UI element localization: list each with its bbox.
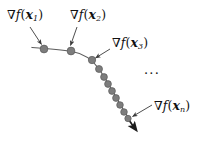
ellipsis-text: ··· [144, 66, 160, 81]
variable-x: x [173, 98, 181, 113]
arrow-to-x1-icon [30, 27, 42, 45]
iterate-dot [96, 66, 103, 73]
paren-close: ) [38, 7, 43, 22]
gradient-descent-figure: ∇f(x1) ∇f(x2) ∇f(x3) ∇f(xn) ··· [0, 0, 206, 142]
iterate-dot [125, 115, 131, 121]
nabla-icon: ∇ [70, 7, 79, 22]
iterate-dot [67, 47, 75, 55]
gradient-label-n: ∇f(xn) [154, 100, 190, 114]
gradient-label-3: ∇f(x3) [112, 37, 148, 51]
nabla-icon: ∇ [7, 7, 16, 22]
paren-close: ) [143, 35, 148, 50]
iterate-dot [88, 56, 95, 63]
arrow-to-x2-icon [71, 27, 78, 46]
trajectory-curve [32, 48, 134, 129]
iterate-dot [117, 102, 124, 109]
variable-x: x [26, 7, 34, 22]
iterate-dot [121, 109, 128, 116]
iterate-dot [40, 45, 48, 53]
iterate-dot [101, 74, 108, 81]
paren-close: ) [101, 7, 106, 22]
paren-close: ) [185, 98, 190, 113]
nabla-icon: ∇ [112, 35, 121, 50]
variable-x: x [131, 35, 139, 50]
nabla-icon: ∇ [154, 98, 163, 113]
iterate-dot [113, 95, 120, 102]
gradient-label-2: ∇f(x2) [70, 9, 106, 23]
arrow-to-xn-icon [133, 105, 153, 117]
iterate-dot [105, 81, 112, 88]
variable-x: x [89, 7, 97, 22]
arrow-to-x3-icon [96, 49, 111, 58]
gradient-label-1: ∇f(x1) [7, 9, 43, 23]
iterate-dot [109, 88, 116, 95]
